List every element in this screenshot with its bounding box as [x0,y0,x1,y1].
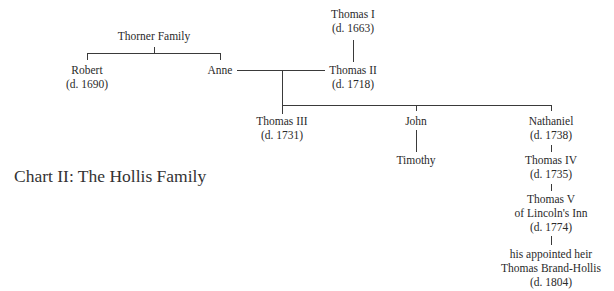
node-note: of Lincoln's Inn [515,206,588,220]
node-john: John [405,114,427,128]
node-name: Thomas IV [525,153,577,167]
connector-thomas-iv-to-thomas-v [551,184,552,191]
node-note: his appointed heir [501,247,601,261]
chart-title: Chart II: The Hollis Family [14,166,206,187]
node-name: Timothy [396,153,435,167]
connector-thomas-i-to-thomas-ii [353,40,354,62]
node-name: Thomas Brand-Hollis [501,261,601,275]
node-name: Thomas I [331,7,375,21]
node-name: Thomas II [329,63,377,77]
node-anne: Anne [208,63,233,77]
connector-children-bar [282,105,552,106]
connector-thorner-to-anne [220,53,221,60]
connector-nathaniel-to-thomas-iv [551,145,552,152]
node-dates: (d. 1731) [256,128,307,142]
node-dates: (d. 1738) [529,128,574,142]
node-name: Robert [66,63,108,77]
node-name: Thorner Family [118,29,191,43]
node-thomas-brand-hollis: his appointed heir Thomas Brand-Hollis (… [501,247,601,289]
node-dates: (d. 1690) [66,77,108,91]
node-dates: (d. 1804) [501,275,601,289]
node-dates: (d. 1774) [515,220,588,234]
node-thorner-family: Thorner Family [118,29,191,43]
connector-thorner-bracket [87,53,221,54]
node-thomas-iv: Thomas IV (d. 1735) [525,153,577,181]
connector-marriage-drop [282,70,283,114]
connector-thomas-v-to-heir [551,236,552,245]
node-thomas-ii: Thomas II (d. 1718) [329,63,377,91]
connector-to-john [416,105,417,111]
node-dates: (d. 1718) [329,77,377,91]
node-name: Anne [208,63,233,77]
node-name: Thomas III [256,114,307,128]
node-dates: (d. 1735) [525,167,577,181]
node-thomas-v: Thomas V of Lincoln's Inn (d. 1774) [515,192,588,234]
connector-john-to-timothy [416,130,417,152]
connector-to-nathaniel [551,105,552,111]
node-name: John [405,114,427,128]
node-thomas-i: Thomas I (d. 1663) [331,7,375,35]
connector-thorner-to-robert [87,53,88,60]
node-dates: (d. 1663) [331,21,375,35]
node-timothy: Timothy [396,153,435,167]
node-name: Nathaniel [529,114,574,128]
connector-marriage [237,70,325,71]
node-thomas-iii: Thomas III (d. 1731) [256,114,307,142]
node-robert: Robert (d. 1690) [66,63,108,91]
node-nathaniel: Nathaniel (d. 1738) [529,114,574,142]
node-name: Thomas V [515,192,588,206]
